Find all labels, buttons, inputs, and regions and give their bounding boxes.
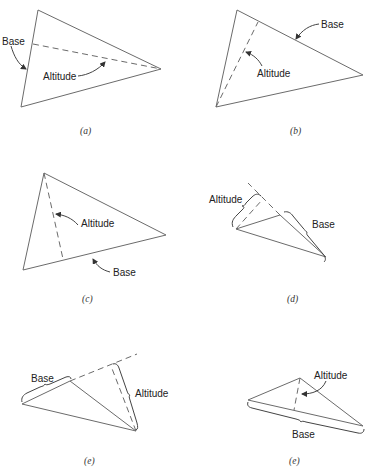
base-label-d: Base — [312, 219, 335, 230]
caption-d: (d) — [287, 294, 298, 305]
base-leader-a — [11, 46, 26, 69]
base-leader-b — [296, 24, 319, 39]
panel-b: Base Altitude (b) — [216, 10, 363, 137]
base-label-e-right: Base — [292, 429, 315, 440]
caption-e-left: (e) — [84, 456, 95, 467]
base-label-e-left: Base — [31, 373, 54, 384]
altitude-line-e-right — [294, 378, 300, 410]
altitude-leader-c — [56, 214, 78, 225]
base-extension-e-left — [70, 354, 137, 381]
caption-b: (b) — [290, 126, 301, 137]
caption-a: (a) — [80, 126, 91, 137]
altitude-leader-b — [246, 52, 262, 66]
panel-e-right: Altitude Base (e) — [248, 370, 364, 467]
altitude-line-a — [33, 44, 161, 69]
altitude-label-c: Altitude — [81, 218, 115, 229]
altitude-label-d: Altitude — [209, 194, 243, 205]
triangle-altitude-figure: Base Altitude (a) Base Altitude (b) Alti… — [0, 0, 372, 473]
altitude-label-a: Altitude — [43, 71, 77, 82]
triangle-a — [21, 10, 161, 107]
triangle-e-right — [248, 378, 363, 426]
altitude-label-b: Altitude — [257, 68, 291, 79]
altitude-line-b — [216, 22, 258, 107]
altitude-brace-e-left — [113, 364, 138, 430]
caption-c: (c) — [82, 294, 93, 305]
base-label-b: Base — [321, 19, 344, 30]
base-leader-c — [93, 259, 110, 272]
panel-e-left: Base Altitude (e) — [22, 354, 169, 467]
altitude-label-e-left: Altitude — [135, 388, 169, 399]
altitude-label-e-right: Altitude — [314, 370, 348, 381]
panel-c: Altitude Base (c) — [23, 173, 166, 305]
panel-a: Base Altitude (a) — [2, 10, 161, 137]
altitude-line-c — [44, 173, 63, 259]
panel-d: Altitude Base (d) — [209, 183, 335, 305]
altitude-leader-e-right — [302, 381, 326, 394]
triangle-e-left — [22, 381, 136, 431]
base-label-a: Base — [2, 36, 25, 47]
altitude-leader-a — [78, 62, 105, 76]
base-label-c: Base — [113, 267, 136, 278]
caption-e-right: (e) — [289, 456, 300, 467]
